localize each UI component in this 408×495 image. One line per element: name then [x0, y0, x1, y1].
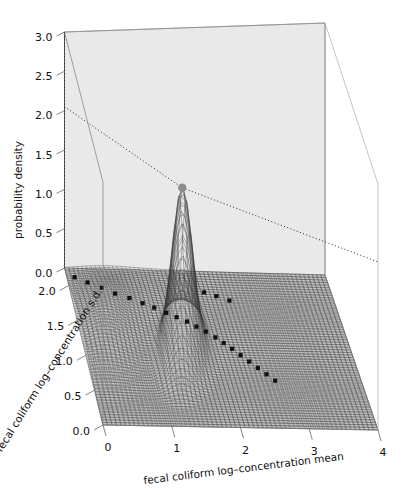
x-axis-tick: [309, 429, 312, 440]
scatter-point: [113, 291, 117, 295]
x-axis-tick: [172, 426, 175, 437]
scatter-point: [239, 353, 243, 357]
box-edge: [325, 23, 378, 184]
y-tick-label: 0.5: [64, 390, 82, 403]
z-tick-label: 0.5: [35, 227, 53, 240]
x-axis-tick: [103, 425, 106, 436]
z-tick-label: 1.0: [35, 188, 53, 201]
y-axis-tick: [85, 390, 94, 395]
scatter-point: [214, 294, 218, 298]
y-tick-label: 2.0: [38, 285, 56, 298]
x-axis-tick: [241, 428, 244, 439]
scatter-point: [85, 280, 89, 284]
scatter-point: [230, 347, 234, 351]
z-axis-tick: [57, 71, 65, 75]
z-axis-tick-labels: 0.00.51.01.52.02.53.0: [35, 31, 53, 280]
z-axis-tick: [57, 32, 65, 36]
surface-plot-3d: 0.00.51.01.52.02.53.0 probability densit…: [0, 0, 408, 495]
figure-root: 0.00.51.01.52.02.53.0 probability densit…: [0, 0, 408, 495]
z-axis-tick: [57, 189, 65, 193]
back-wall-rear: [65, 23, 326, 275]
scatter-point: [72, 275, 76, 279]
x-tick-label: 1: [173, 442, 180, 455]
scatter-point: [273, 379, 277, 383]
z-axis-tick: [57, 150, 65, 154]
scatter-point: [164, 311, 168, 315]
y-tick-label: 1.5: [47, 320, 65, 333]
scatter-point: [140, 301, 144, 305]
scatter-point: [202, 290, 206, 294]
y-tick-label: 0.0: [73, 425, 91, 438]
scatter-point: [247, 359, 251, 363]
scatter-point: [152, 306, 156, 310]
x-tick-label: 0: [105, 441, 112, 454]
x-tick-label: 4: [380, 446, 387, 459]
scatter-point: [204, 330, 208, 334]
z-axis-label: probability density: [12, 141, 24, 239]
y-axis-tick: [77, 355, 86, 360]
scatter-point: [213, 335, 217, 339]
scatter-point: [227, 298, 231, 302]
z-tick-label: 1.5: [35, 149, 53, 162]
x-tick-label: 2: [242, 444, 249, 457]
z-tick-label: 2.0: [35, 109, 53, 122]
z-tick-label: 3.0: [35, 31, 53, 44]
z-axis-tick: [57, 268, 65, 272]
y-axis-tick: [94, 425, 103, 430]
scatter-point: [256, 366, 260, 370]
scatter-point: [127, 296, 131, 300]
scatter-point: [222, 341, 226, 345]
scatter-point: [175, 315, 179, 319]
y-axis-tick: [60, 285, 69, 290]
z-tick-label: 2.5: [35, 70, 53, 83]
z-axis-tick: [57, 111, 65, 115]
scatter-point: [264, 372, 268, 376]
x-axis-tick: [378, 430, 381, 441]
peak-apex-marker: [178, 184, 186, 192]
z-tick-label: 0.0: [35, 267, 53, 280]
scatter-point: [185, 319, 189, 323]
x-axis-tick-labels: 01234: [105, 441, 387, 459]
z-axis-tick: [57, 229, 65, 233]
scatter-point: [194, 325, 198, 329]
